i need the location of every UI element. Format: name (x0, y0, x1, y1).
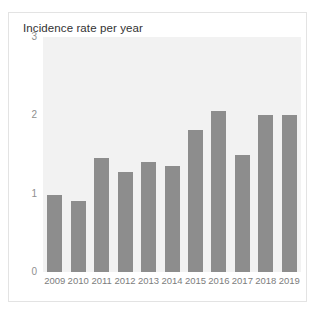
bar[interactable] (118, 172, 133, 272)
chart-card: Incidence rate per year 0123 20092010201… (8, 12, 307, 302)
x-axis-tick-label: 2019 (274, 275, 304, 287)
bar[interactable] (47, 195, 62, 272)
bar[interactable] (282, 115, 297, 272)
bar[interactable] (165, 166, 180, 272)
bar[interactable] (71, 201, 86, 272)
y-axis-tick-label: 3 (31, 32, 37, 42)
bar[interactable] (235, 155, 250, 273)
chart-title: Incidence rate per year (23, 22, 143, 34)
x-axis: 2009201020112012201320142015201620172018… (43, 275, 301, 291)
bar[interactable] (188, 130, 203, 272)
y-axis-tick-label: 1 (31, 189, 37, 199)
bar[interactable] (141, 162, 156, 272)
bar[interactable] (258, 115, 273, 272)
bar[interactable] (211, 111, 226, 272)
y-axis-tick-label: 0 (31, 267, 37, 277)
bar-series (43, 37, 301, 272)
y-axis-tick-label: 2 (31, 110, 37, 120)
bar[interactable] (94, 158, 109, 272)
y-axis: 0123 (9, 37, 43, 272)
